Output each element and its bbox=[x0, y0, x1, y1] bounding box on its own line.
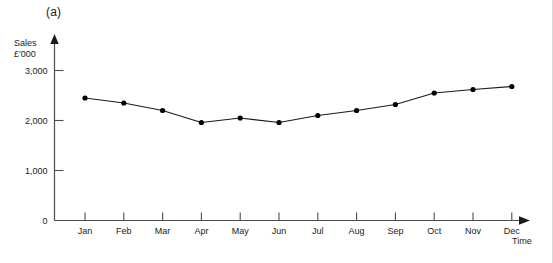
data-point-marker bbox=[199, 120, 204, 125]
data-point-marker bbox=[393, 102, 398, 107]
x-tick-label: Jun bbox=[272, 226, 287, 236]
x-tick-label: May bbox=[232, 226, 250, 236]
x-tick-label: Jul bbox=[312, 226, 324, 236]
x-axis-arrow-icon bbox=[519, 216, 530, 225]
y-tick-label: 2,000 bbox=[25, 116, 48, 126]
data-point-marker bbox=[276, 120, 281, 125]
y-axis bbox=[50, 34, 58, 221]
data-point-marker bbox=[238, 115, 243, 120]
y-tick-label: 3,000 bbox=[25, 66, 48, 76]
x-tick-label: Oct bbox=[427, 226, 442, 236]
data-point-marker bbox=[82, 95, 87, 100]
data-point-marker bbox=[509, 84, 514, 89]
x-tick-label: Apr bbox=[194, 226, 208, 236]
series-line-sales bbox=[85, 87, 512, 123]
x-tick-label: Mar bbox=[155, 226, 171, 236]
data-point-marker bbox=[160, 108, 165, 113]
x-axis bbox=[55, 216, 531, 225]
y-tick-label: 1,000 bbox=[25, 166, 48, 176]
series-line-group bbox=[85, 87, 512, 123]
figure-panel: (a) Sales £'000 Time 01,0002,0003,000 Ja… bbox=[0, 0, 553, 263]
data-point-marker bbox=[354, 108, 359, 113]
y-axis-arrow-icon bbox=[50, 34, 58, 44]
line-chart: 01,0002,0003,000 JanFebMarAprMayJunJulAu… bbox=[0, 0, 553, 263]
x-tick-label: Sep bbox=[387, 226, 403, 236]
y-tick-group: 01,0002,0003,000 bbox=[25, 66, 64, 226]
data-point-marker bbox=[432, 90, 437, 95]
data-point-marker bbox=[470, 87, 475, 92]
x-tick-label: Dec bbox=[504, 226, 521, 236]
x-tick-label: Feb bbox=[116, 226, 132, 236]
x-tick-label: Nov bbox=[465, 226, 482, 236]
data-point-marker bbox=[315, 113, 320, 118]
x-tick-label: Jan bbox=[78, 226, 93, 236]
x-tick-label: Aug bbox=[349, 226, 365, 236]
data-point-marker bbox=[121, 100, 126, 105]
x-tick-group: JanFebMarAprMayJunJulAugSepOctNovDec bbox=[78, 213, 521, 236]
y-tick-label: 0 bbox=[42, 216, 47, 226]
